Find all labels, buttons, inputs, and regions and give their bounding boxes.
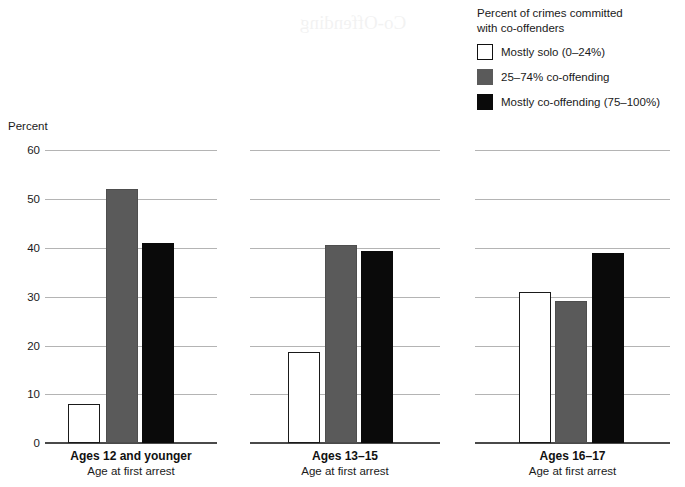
y-tick-60: 60 xyxy=(10,144,40,156)
y-tick-20: 20 xyxy=(10,340,40,352)
panel-title-1: Ages 13–15 xyxy=(250,449,440,464)
legend-item-mostly-co-offending: Mostly co-offending (75–100%) xyxy=(477,94,685,110)
chart-panel-ages-13-15 xyxy=(250,150,440,443)
gridline-50 xyxy=(475,199,670,200)
panel-caption-ages-12-and-younger: Ages 12 and younger Age at first arrest xyxy=(45,449,217,478)
legend-label-mostly-solo: Mostly solo (0–24%) xyxy=(501,45,605,59)
gridline-60 xyxy=(45,150,217,151)
chart-legend: Percent of crimes committed with co-offe… xyxy=(477,6,685,119)
gridline-60 xyxy=(250,150,440,151)
panel-subtitle-0: Age at first arrest xyxy=(45,464,217,479)
bar-ages13-15-mostly-solo xyxy=(288,352,320,443)
legend-label-mixed-co-offending: 25–74% co-offending xyxy=(501,70,610,84)
chart-panel-ages-16-17 xyxy=(475,150,670,443)
panel-title-2: Ages 16–17 xyxy=(475,449,670,464)
y-tick-10: 10 xyxy=(10,388,40,400)
bar-ages16-17-mostly-co-offending xyxy=(592,253,624,443)
panel-title-0: Ages 12 and younger xyxy=(45,449,217,464)
panel-caption-ages-16-17: Ages 16–17 Age at first arrest xyxy=(475,449,670,478)
bar-ages12-mostly-co-offending xyxy=(142,243,174,443)
bar-ages16-17-mostly-solo xyxy=(519,292,551,443)
gridline-50 xyxy=(250,199,440,200)
bar-ages13-15-mixed-co-offending xyxy=(325,245,357,443)
legend-swatch-black-icon xyxy=(477,94,493,110)
y-tick-40: 40 xyxy=(10,242,40,254)
legend-swatch-white-icon xyxy=(477,44,493,60)
panel-caption-ages-13-15: Ages 13–15 Age at first arrest xyxy=(250,449,440,478)
y-tick-50: 50 xyxy=(10,193,40,205)
gridline-60 xyxy=(475,150,670,151)
legend-title: Percent of crimes committed with co-offe… xyxy=(477,6,685,35)
legend-swatch-gray-icon xyxy=(477,69,493,85)
y-axis-title: Percent xyxy=(8,120,48,132)
legend-item-mostly-solo: Mostly solo (0–24%) xyxy=(477,44,685,60)
gridline-30 xyxy=(475,297,670,298)
chart-panel-ages-12-and-younger xyxy=(45,150,217,443)
bar-ages16-17-mixed-co-offending xyxy=(555,301,587,443)
legend-item-mixed-co-offending: 25–74% co-offending xyxy=(477,69,685,85)
panel-subtitle-2: Age at first arrest xyxy=(475,464,670,479)
y-tick-0: 0 xyxy=(10,437,40,449)
bar-ages12-mostly-solo xyxy=(68,404,100,443)
gridline-40 xyxy=(475,248,670,249)
bar-ages12-mixed-co-offending xyxy=(106,189,138,443)
legend-label-mostly-co-offending: Mostly co-offending (75–100%) xyxy=(501,95,660,109)
bar-ages13-15-mostly-co-offending xyxy=(361,251,393,443)
y-tick-30: 30 xyxy=(10,291,40,303)
panel-subtitle-1: Age at first arrest xyxy=(250,464,440,479)
